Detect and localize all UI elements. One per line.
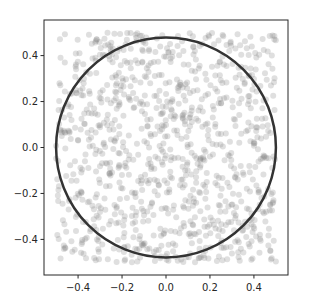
- scatter-point: [147, 80, 153, 86]
- scatter-point: [61, 221, 67, 227]
- scatter-point: [249, 44, 255, 50]
- scatter-point: [111, 138, 117, 144]
- scatter-point: [187, 218, 193, 224]
- scatter-point: [235, 31, 241, 37]
- scatter-point: [130, 234, 136, 240]
- scatter-point: [62, 60, 68, 66]
- scatter-point: [267, 248, 273, 254]
- scatter-point: [86, 32, 92, 38]
- scatter-point: [152, 131, 158, 137]
- scatter-point: [113, 90, 119, 96]
- scatter-point: [167, 147, 173, 153]
- scatter-point: [128, 65, 134, 71]
- scatter-point: [248, 105, 254, 111]
- scatter-point: [152, 258, 158, 264]
- scatter-point: [218, 221, 224, 227]
- scatter-point: [211, 222, 217, 228]
- scatter-point: [130, 205, 136, 211]
- scatter-point: [255, 146, 261, 152]
- scatter-point: [268, 191, 274, 197]
- scatter-point: [160, 162, 166, 168]
- scatter-point: [138, 180, 144, 186]
- scatter-point: [151, 166, 157, 172]
- scatter-point: [200, 154, 206, 160]
- scatter-point: [272, 107, 278, 113]
- scatter-point: [262, 219, 268, 225]
- scatter-point: [167, 169, 173, 175]
- scatter-point: [90, 143, 96, 149]
- scatter-point: [122, 213, 128, 219]
- x-tick-label: −0.2: [110, 282, 134, 293]
- scatter-point: [145, 218, 151, 224]
- scatter-point: [175, 85, 181, 91]
- x-axis: −0.4−0.20.00.20.4: [66, 275, 262, 293]
- scatter-point: [98, 100, 104, 106]
- scatter-point: [196, 108, 202, 114]
- scatter-point: [243, 234, 249, 240]
- scatter-point: [229, 251, 235, 257]
- scatter-point: [149, 200, 155, 206]
- scatter-point: [205, 204, 211, 210]
- scatter-point: [187, 193, 193, 199]
- scatter-point: [254, 116, 260, 122]
- scatter-point: [247, 189, 253, 195]
- x-tick-label: 0.0: [158, 282, 174, 293]
- scatter-point: [113, 72, 119, 78]
- scatter-point: [72, 158, 78, 164]
- scatter-point: [264, 77, 270, 83]
- scatter-point: [253, 183, 259, 189]
- scatter-point: [262, 70, 268, 76]
- scatter-point: [137, 79, 143, 85]
- scatter-point: [254, 124, 260, 130]
- scatter-point: [55, 193, 61, 199]
- scatter-point: [270, 93, 276, 99]
- scatter-point: [190, 33, 196, 39]
- scatter-point: [111, 98, 117, 104]
- scatter-point: [203, 233, 209, 239]
- scatter-point: [235, 176, 241, 182]
- scatter-point: [94, 37, 100, 43]
- y-tick-label: 0.4: [22, 50, 38, 61]
- scatter-point: [218, 77, 224, 83]
- scatter-point: [122, 160, 128, 166]
- scatter-point: [265, 233, 271, 239]
- scatter-point: [175, 43, 181, 49]
- scatter-point: [190, 203, 196, 209]
- scatter-point: [77, 87, 83, 93]
- scatter-point: [217, 193, 223, 199]
- scatter-point: [182, 167, 188, 173]
- scatter-point: [222, 157, 228, 163]
- scatter-point: [230, 104, 236, 110]
- scatter-point: [138, 199, 144, 205]
- scatter-point: [221, 245, 227, 251]
- scatter-point: [73, 228, 79, 234]
- scatter-point: [97, 124, 103, 130]
- scatter-point: [226, 48, 232, 54]
- scatter-point: [159, 104, 165, 110]
- scatter-point: [259, 105, 265, 111]
- scatter-point: [268, 256, 274, 262]
- scatter-point: [114, 259, 120, 265]
- scatter-point: [156, 182, 162, 188]
- scatter-point: [93, 169, 99, 175]
- scatter-point: [164, 98, 170, 104]
- scatter-point: [214, 258, 220, 264]
- scatter-point: [122, 256, 128, 262]
- scatter-point: [250, 224, 256, 230]
- scatter-point: [58, 256, 64, 262]
- scatter-point: [236, 140, 242, 146]
- scatter-point: [122, 58, 128, 64]
- scatter-point: [79, 116, 85, 122]
- scatter-point: [177, 79, 183, 85]
- scatter-point: [236, 254, 242, 260]
- scatter-point: [253, 67, 259, 73]
- scatter-point: [221, 95, 227, 101]
- scatter-point: [156, 98, 162, 104]
- scatter-point: [116, 180, 122, 186]
- scatter-point: [190, 43, 196, 49]
- scatter-point: [124, 195, 130, 201]
- scatter-point: [217, 59, 223, 65]
- scatter-point: [103, 183, 109, 189]
- scatter-point: [133, 96, 139, 102]
- scatter-point: [75, 137, 81, 143]
